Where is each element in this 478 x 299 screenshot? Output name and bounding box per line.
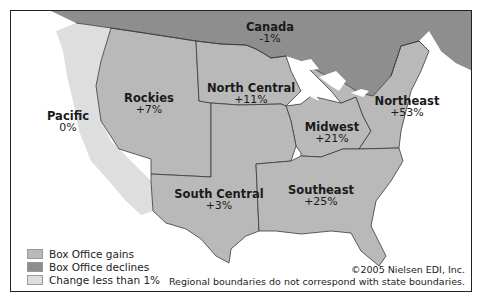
region-label-south-central: South Central +3% xyxy=(169,188,269,212)
region-value: 0% xyxy=(43,122,93,134)
region-label-midwest: Midwest +21% xyxy=(297,121,367,145)
region-value: +7% xyxy=(119,104,179,116)
region-label-north-central: North Central +11% xyxy=(201,82,301,106)
map-legend: Box Office gains Box Office declines Cha… xyxy=(27,247,160,286)
legend-label: Box Office gains xyxy=(49,248,134,260)
legend-swatch-declines xyxy=(27,262,43,272)
region-label-pacific: Pacific 0% xyxy=(43,110,93,134)
region-label-canada: Canada -1% xyxy=(235,21,305,45)
region-label-northeast: Northeast +53% xyxy=(367,95,447,119)
map-frame: Canada -1% Pacific 0% Rockies +7% North … xyxy=(10,10,472,292)
legend-swatch-gains xyxy=(27,249,43,259)
legend-label: Box Office declines xyxy=(49,261,149,273)
legend-item-change-less-1: Change less than 1% xyxy=(27,273,160,286)
copyright-text: ©2005 Nielsen EDI, Inc. xyxy=(169,264,465,276)
boundary-note: Regional boundaries do not correspond wi… xyxy=(169,276,465,288)
legend-item-gains: Box Office gains xyxy=(27,247,160,260)
region-value: +3% xyxy=(169,200,269,212)
region-value: +21% xyxy=(297,133,367,145)
legend-label: Change less than 1% xyxy=(49,274,160,286)
map-credit: ©2005 Nielsen EDI, Inc. Regional boundar… xyxy=(169,264,465,288)
region-value: +11% xyxy=(201,94,301,106)
region-value: +25% xyxy=(281,196,361,208)
legend-swatch-change-less-1 xyxy=(27,275,43,285)
region-label-rockies: Rockies +7% xyxy=(119,92,179,116)
region-value: -1% xyxy=(235,33,305,45)
legend-item-declines: Box Office declines xyxy=(27,260,160,273)
region-value: +53% xyxy=(367,107,447,119)
region-label-southeast: Southeast +25% xyxy=(281,184,361,208)
